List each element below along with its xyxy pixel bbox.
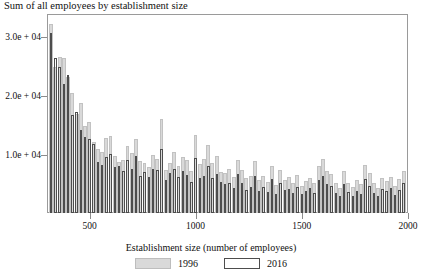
bar-2016 xyxy=(262,187,264,213)
legend-label-2016: 2016 xyxy=(267,258,287,269)
bar-2016 xyxy=(131,169,133,213)
bar-2016 xyxy=(105,157,107,213)
bar-2016 xyxy=(88,139,90,213)
bar-2016 xyxy=(182,171,184,213)
bar-2016 xyxy=(254,176,256,213)
bar-2016 xyxy=(241,183,243,213)
y-axis-tick-label: 1.0e + 04 xyxy=(5,150,41,160)
x-axis-tick xyxy=(408,213,409,219)
bar-2016 xyxy=(360,194,362,213)
bar-2016 xyxy=(101,165,103,213)
bar-2016 xyxy=(250,187,252,213)
bar-2016 xyxy=(233,188,235,213)
bar-2016 xyxy=(190,182,192,213)
bars-container xyxy=(47,14,408,213)
bar-2016 xyxy=(67,75,69,213)
x-axis-tick xyxy=(302,213,303,219)
bar-2016 xyxy=(377,196,379,213)
bar-2016 xyxy=(126,160,128,213)
bar-2016 xyxy=(275,194,277,213)
bar-2016 xyxy=(373,193,375,213)
chart-title: Sum of all employees by establishment si… xyxy=(4,0,188,12)
x-axis-tick-label: 1000 xyxy=(186,221,205,231)
bar-2016 xyxy=(245,190,247,213)
bar-2016 xyxy=(54,58,56,213)
legend-swatch-1996 xyxy=(135,258,171,269)
bar-2016 xyxy=(224,184,226,213)
bar-2016 xyxy=(292,193,294,213)
bar-2016 xyxy=(347,192,349,213)
bar-2016 xyxy=(177,177,179,213)
bar-2016 xyxy=(75,112,77,213)
bar-2016 xyxy=(143,172,145,213)
bar-2016 xyxy=(271,179,273,213)
bar-2016 xyxy=(122,171,124,213)
bar-2016 xyxy=(50,33,52,213)
bar-2016 xyxy=(385,191,387,213)
bar-2016 xyxy=(288,189,290,213)
bar-2016 xyxy=(398,190,400,213)
bar-2016 xyxy=(71,115,73,213)
bar-2016 xyxy=(258,191,260,213)
bar-2016 xyxy=(203,176,205,213)
legend-label-1996: 1996 xyxy=(178,258,198,269)
x-axis-tick xyxy=(196,213,197,219)
bar-2016 xyxy=(343,184,345,213)
bar-2016 xyxy=(186,175,188,213)
bar-2016 xyxy=(279,183,281,213)
bar-2016 xyxy=(335,193,337,213)
y-axis-labels: 1.0e + 042.0e + 043.0e + 04 xyxy=(0,14,41,213)
x-axis-tick xyxy=(90,213,91,219)
bar-2016 xyxy=(165,180,167,213)
x-axis-tick-label: 500 xyxy=(82,221,96,231)
y-axis-tick-label: 2.0e + 04 xyxy=(5,91,41,101)
bar-2016 xyxy=(296,187,298,213)
x-axis-tick-label: 2000 xyxy=(399,221,418,231)
bar-2016 xyxy=(199,178,201,213)
bar-2016 xyxy=(356,191,358,213)
bar-2016 xyxy=(58,67,60,213)
bar-2016 xyxy=(305,191,307,213)
bar-2016 xyxy=(63,84,65,213)
bar-2016 xyxy=(148,177,150,213)
bar-2016 xyxy=(313,193,315,213)
bar-2016 xyxy=(216,174,218,213)
bar-2016 xyxy=(318,180,320,213)
bar-2016 xyxy=(152,169,154,213)
bar-2016 xyxy=(92,144,94,213)
bar-2016 xyxy=(237,174,239,213)
y-axis-tick xyxy=(41,37,47,38)
bar-2016 xyxy=(194,158,196,213)
bar-2016 xyxy=(207,166,209,213)
bar-2016 xyxy=(211,178,213,213)
bar-2016 xyxy=(309,188,311,213)
bar-2016 xyxy=(169,173,171,213)
bar-2016 xyxy=(390,188,392,213)
bar-2016 xyxy=(326,184,328,213)
bar-2016 xyxy=(368,186,370,214)
bar-2016 xyxy=(364,179,366,213)
y-axis-tick xyxy=(41,96,47,97)
bar-2016 xyxy=(301,194,303,213)
bar-2016 xyxy=(156,170,158,213)
bar-2016 xyxy=(381,189,383,213)
bar-2016 xyxy=(97,162,99,214)
bar-2016 xyxy=(322,176,324,213)
bar-2016 xyxy=(402,183,404,213)
chart-legend: 1996 2016 xyxy=(0,258,422,269)
x-axis-title: Establishment size (number of employees) xyxy=(0,242,422,253)
bar-2016 xyxy=(267,192,269,213)
bar-2016 xyxy=(139,176,141,213)
bar-2016 xyxy=(109,154,111,213)
bar-2016 xyxy=(330,186,332,213)
bar-2016 xyxy=(220,182,222,213)
legend-swatch-2016 xyxy=(224,258,260,269)
bar-2016 xyxy=(118,166,120,213)
y-axis-tick xyxy=(41,155,47,156)
bar-2016 xyxy=(339,196,341,213)
bar-2016 xyxy=(114,167,116,213)
plot-area: 500100015002000 xyxy=(47,14,408,213)
bar-2016 xyxy=(394,195,396,213)
bar-2016 xyxy=(80,130,82,213)
y-axis-tick-label: 3.0e + 04 xyxy=(5,32,41,42)
